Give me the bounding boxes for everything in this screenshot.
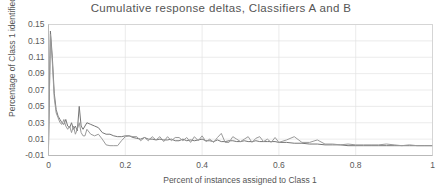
plot-area: -0.010.010.030.050.070.090.110.130.15 00… bbox=[0, 0, 442, 192]
x-tick-labels: 00.20.40.60.81 bbox=[46, 160, 435, 170]
y-tick-label: 0.13 bbox=[28, 36, 45, 46]
y-tick-label: 0.03 bbox=[28, 118, 45, 128]
y-tick-label: 0.07 bbox=[28, 85, 45, 95]
series-lines bbox=[49, 31, 433, 147]
chart-container: Cumulative response deltas, Classifiers … bbox=[0, 0, 442, 192]
series-line bbox=[49, 34, 433, 147]
x-tick-label: 1 bbox=[430, 160, 435, 170]
y-tick-label: 0.05 bbox=[28, 101, 45, 111]
y-tick-labels: -0.010.010.030.050.070.090.110.130.15 bbox=[25, 19, 45, 160]
y-tick-label: 0.09 bbox=[28, 68, 45, 78]
x-tick-label: 0.2 bbox=[119, 160, 131, 170]
series-line bbox=[49, 31, 433, 147]
y-tick-label: 0.15 bbox=[28, 19, 45, 29]
y-tick-label: 0.11 bbox=[29, 52, 45, 62]
y-tick-label: 0.01 bbox=[28, 134, 45, 144]
x-tick-label: 0.8 bbox=[350, 160, 362, 170]
gridlines bbox=[49, 25, 433, 156]
x-tick-label: 0 bbox=[46, 160, 51, 170]
x-tick-label: 0.4 bbox=[196, 160, 208, 170]
y-tick-label: -0.01 bbox=[25, 150, 45, 160]
x-tick-label: 0.6 bbox=[273, 160, 285, 170]
